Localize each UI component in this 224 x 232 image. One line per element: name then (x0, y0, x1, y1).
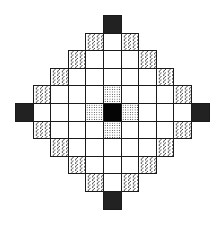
grid-cell-hatched (173, 85, 192, 104)
grid-cell-white (156, 121, 175, 140)
grid-cell-white (103, 50, 122, 69)
grid-cell-hatched (156, 68, 175, 87)
grid-cell-white (68, 68, 87, 87)
grid-cell-hatched (121, 33, 140, 52)
grid-cell-hatched (85, 173, 104, 192)
grid-cell-hatched (138, 50, 157, 69)
grid-cell-hatched (138, 156, 157, 175)
grid-cell-dotted (121, 103, 140, 122)
grid-cell-hatched (68, 50, 87, 69)
grid-cell-dark (191, 103, 210, 122)
grid-cell-white (50, 121, 69, 140)
grid-cell-hatched (50, 138, 69, 157)
grid-cell-white (103, 156, 122, 175)
grid-cell-white (33, 103, 52, 122)
grid-cell-white (85, 85, 104, 104)
grid-cell-dark (103, 191, 122, 210)
grid-cell-dotted (85, 103, 104, 122)
grid-cell-white (85, 50, 104, 69)
grid-cell-white (156, 103, 175, 122)
grid-cell-dark (103, 15, 122, 34)
grid-cell-white (121, 156, 140, 175)
grid-cell-hatched (173, 121, 192, 140)
grid-cell-hatched (50, 68, 69, 87)
grid-cell-white (138, 121, 157, 140)
grid-cell-hatched (85, 33, 104, 52)
grid-cell-white (85, 121, 104, 140)
grid-cell-white (85, 138, 104, 157)
grid-cell-white (103, 173, 122, 192)
grid-cell-hatched (156, 138, 175, 157)
grid-cell-white (138, 138, 157, 157)
grid-cell-white (68, 85, 87, 104)
grid-cell-white (121, 50, 140, 69)
grid-cell-white (68, 138, 87, 157)
grid-cell-dotted (103, 85, 122, 104)
grid-cell-dotted (103, 121, 122, 140)
grid-cell-white (103, 138, 122, 157)
grid-cell-dark (15, 103, 34, 122)
grid-cell-white (103, 33, 122, 52)
grid-cell-hatched (68, 156, 87, 175)
grid-cell-white (121, 68, 140, 87)
grid-cell-white (156, 85, 175, 104)
grid-cell-white (121, 121, 140, 140)
grid-cell-white (138, 68, 157, 87)
grid-cell-white (50, 85, 69, 104)
grid-cell-white (173, 103, 192, 122)
grid-cell-white (121, 138, 140, 157)
grid-cell-black (103, 103, 122, 122)
grid-cell-white (68, 121, 87, 140)
grid-cell-hatched (121, 173, 140, 192)
grid-cell-white (68, 103, 87, 122)
diamond-grid-diagram (0, 0, 224, 232)
grid-cell-white (103, 68, 122, 87)
grid-cell-white (85, 68, 104, 87)
grid-cell-hatched (33, 121, 52, 140)
grid-cell-white (138, 85, 157, 104)
grid-cell-white (85, 156, 104, 175)
grid-cell-white (138, 103, 157, 122)
grid-cell-hatched (33, 85, 52, 104)
grid-cell-white (50, 103, 69, 122)
grid-cell-white (121, 85, 140, 104)
